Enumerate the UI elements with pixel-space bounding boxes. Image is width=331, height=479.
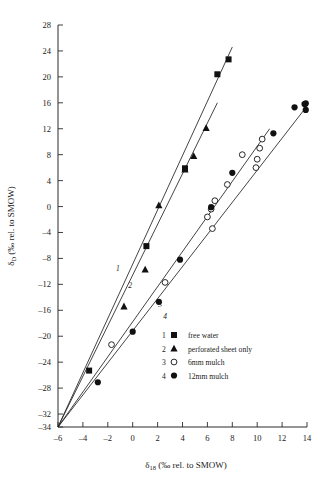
data-point-series-2 [142,266,149,273]
y-tick-label: –32 [37,409,51,419]
line-number-4: 4 [163,312,167,321]
y-tick-label: 20 [43,72,52,82]
legend-label: free water [188,331,219,340]
data-point-series-3 [239,152,245,158]
legend-entry: 36mm mulch [162,358,225,367]
y-tick-label: –8 [42,253,52,263]
data-point-series-4 [208,204,214,210]
legend: 1free water2perforated sheet only36mm mu… [162,331,252,381]
x-tick-label: –6 [53,433,63,443]
y-tick-label: 24 [43,46,52,56]
legend-label: 12mm mulch [188,372,228,381]
data-point-series-4 [303,100,309,106]
legend-index: 2 [162,345,166,354]
y-tick-label: 12 [43,124,52,134]
legend-marker-filled-triangle [170,345,177,352]
legend-entry: 2perforated sheet only [162,345,252,354]
data-point-series-4 [303,107,309,113]
data-point-series-2 [203,124,210,131]
line-number-2: 2 [128,281,132,290]
legend-label: perforated sheet only [188,345,252,354]
legend-marker-filled-circle [171,372,177,378]
data-point-series-4 [95,379,101,385]
data-point-series-4 [229,170,235,176]
y-tick-label: –4 [42,227,52,237]
y-tick-label: –24 [37,357,52,367]
x-tick-label: 2 [155,433,159,443]
legend-index: 1 [162,331,166,340]
data-point-series-3 [224,182,230,188]
regression-lines [58,47,307,427]
axes [58,25,307,427]
data-point-series-3 [109,342,115,348]
y-tick-label: 16 [43,98,52,108]
y-tick-label: –12 [37,279,51,289]
y-tick-label: 8 [47,150,51,160]
data-point-series-1 [143,243,149,249]
data-point-series-3 [254,156,260,162]
x-tick-label: –2 [103,433,113,443]
data-point-series-3 [162,280,168,286]
x-tick-label: 4 [180,433,185,443]
x-axis-title: δ18 (‰ rel. to SMOW) [145,460,227,471]
x-tick-label: 12 [278,433,287,443]
data-point-series-3 [212,198,218,204]
legend-entry: 1free water [162,331,219,340]
legend-index: 3 [162,358,166,367]
data-point-series-3 [257,145,263,151]
regression-line-1 [58,47,232,427]
legend-label: 6mm mulch [188,358,225,367]
data-point-series-2 [120,303,127,310]
legend-index: 4 [162,372,166,381]
legend-entry: 412mm mulch [162,372,228,381]
x-tick-label: 6 [205,433,209,443]
y-tick-label: 0 [47,202,51,212]
data-point-series-3 [209,226,215,232]
data-point-series-4 [130,329,136,335]
y-tick-label: –34 [37,422,52,432]
regression-line-4 [58,106,307,427]
data-point-series-4 [270,130,276,136]
data-point-series-3 [205,214,211,220]
data-point-series-4 [291,104,297,110]
y-tick-label: –20 [37,331,51,341]
legend-marker-filled-square [171,332,177,338]
x-tick-label: 10 [253,433,262,443]
x-tick-label: 14 [303,433,312,443]
data-point-series-3 [253,165,259,171]
regression-line-3 [58,129,270,427]
chart-figure: 1234 –6–4–202468101214–34–32–28–24–20–16… [0,0,331,479]
line-number-3: 3 [157,300,162,309]
data-point-series-4 [177,257,183,263]
scatter-plot-canvas: 1234 –6–4–202468101214–34–32–28–24–20–16… [0,0,331,479]
tick-labels: –6–4–202468101214–34–32–28–24–20–16–12–8… [37,20,312,443]
x-tick-label: –4 [78,433,88,443]
x-tick-label: 0 [131,433,135,443]
legend-marker-open-circle [171,359,177,365]
data-point-series-1 [226,56,232,62]
y-tick-label: 4 [47,176,52,186]
y-tick-label: –28 [37,383,51,393]
y-axis-title: δD (‰ rel. to SMOW) [6,186,17,266]
data-point-series-3 [259,136,265,142]
data-point-series-1 [86,368,92,374]
line-number-1: 1 [116,264,120,273]
x-tick-label: 8 [230,433,234,443]
y-tick-label: 28 [43,20,52,30]
data-point-series-1 [214,71,220,77]
y-tick-label: –16 [37,305,51,315]
